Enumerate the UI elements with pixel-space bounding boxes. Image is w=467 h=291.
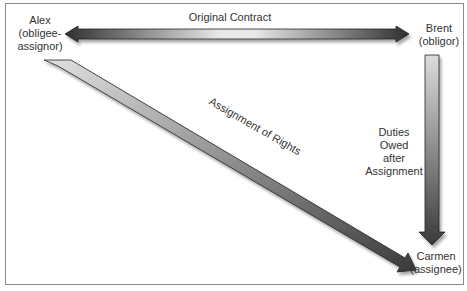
original-contract-arrow bbox=[65, 26, 409, 42]
assignment-arrow bbox=[44, 60, 416, 272]
duties-line-4: Assignment bbox=[362, 165, 426, 178]
original-contract-label: Original Contract bbox=[150, 11, 310, 24]
duties-label: Duties Owed after Assignment bbox=[362, 126, 426, 178]
alex-role: (obligee- bbox=[12, 27, 68, 40]
duties-line-3: after bbox=[362, 152, 426, 165]
brent-name: Brent bbox=[411, 22, 467, 35]
party-carmen: Carmen (assignee) bbox=[406, 250, 466, 276]
carmen-name: Carmen bbox=[406, 250, 466, 263]
carmen-role: (assignee) bbox=[406, 263, 466, 276]
brent-role: (obligor) bbox=[411, 35, 467, 48]
duties-line-1: Duties bbox=[362, 126, 426, 139]
party-brent: Brent (obligor) bbox=[411, 22, 467, 48]
duties-line-2: Owed bbox=[362, 139, 426, 152]
alex-role-2: assignor) bbox=[12, 40, 68, 53]
party-alex: Alex (obligee- assignor) bbox=[12, 14, 68, 53]
alex-name: Alex bbox=[12, 14, 68, 27]
